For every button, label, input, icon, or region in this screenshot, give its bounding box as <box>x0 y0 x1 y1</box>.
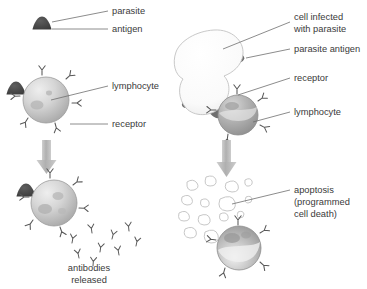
label-infected-cell-line1: cell infected <box>294 12 343 22</box>
label-receptor-right: receptor <box>294 73 328 83</box>
diagram-canvas: parasite antigen lymphocyte receptor <box>0 0 367 289</box>
lymphocyte-top-left-group <box>7 66 109 133</box>
organelle <box>225 102 239 110</box>
label-receptor-left: receptor <box>112 119 146 129</box>
organelle <box>241 232 251 239</box>
organelle <box>224 233 240 243</box>
antibodies-cloud <box>69 222 141 266</box>
organelle <box>53 192 64 200</box>
lymphocyte-bottom-right-group <box>206 216 269 278</box>
label-infected-cell-line2: with parasite <box>293 24 346 34</box>
antigen-triangle-icon <box>33 17 52 30</box>
process-arrow-right <box>217 140 237 177</box>
immunology-diagram: parasite antigen lymphocyte receptor <box>0 0 367 289</box>
label-antibodies-line1: antibodies <box>68 263 111 273</box>
label-lymphocyte-right: lymphocyte <box>294 107 341 117</box>
leader-parasite-antigen <box>246 49 290 58</box>
label-lymphocyte-left: lymphocyte <box>112 81 159 91</box>
label-parasite-antigen: parasite antigen <box>294 44 360 54</box>
label-parasite: parasite <box>112 6 145 16</box>
plasma-cell-group <box>17 169 89 237</box>
leader-apoptosis <box>232 190 290 204</box>
label-apoptosis-line2: (programmed <box>294 197 350 207</box>
bound-antigen-icon <box>7 82 26 95</box>
leader-receptor-right <box>238 78 290 95</box>
organelle <box>38 204 52 214</box>
label-antibodies-line2: released <box>71 275 107 285</box>
lymphocyte-top-left <box>23 77 69 123</box>
label-apoptosis-line1: apoptosis <box>294 185 334 195</box>
leader-parasite <box>52 11 108 22</box>
free-antigen-group <box>33 11 109 30</box>
organelle <box>46 91 52 96</box>
organelle <box>31 101 44 110</box>
label-antigen: antigen <box>112 24 143 34</box>
plasma-cell <box>31 180 77 226</box>
label-apoptosis-line3: cell death) <box>294 209 337 219</box>
organelle <box>58 208 66 214</box>
leader-lymphocyte-right <box>253 112 290 122</box>
